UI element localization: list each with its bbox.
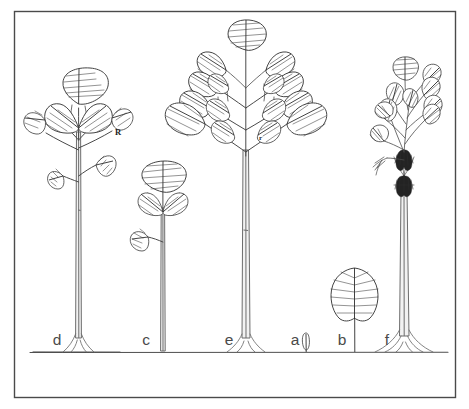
- trunk-icon: [242, 150, 250, 338]
- trunk-icon: [400, 190, 410, 336]
- leaf-icon: [375, 102, 393, 118]
- stage-label-a: a: [291, 331, 300, 348]
- stage-label-d: d: [53, 331, 62, 348]
- stage-label-e: e: [225, 331, 234, 348]
- trunk-icon: [161, 208, 166, 351]
- tree-growth-stages-figure: R d: [0, 0, 469, 409]
- leaf-icon: [370, 125, 389, 142]
- stage-label-f: f: [385, 331, 390, 348]
- leaf-icon: [331, 268, 378, 321]
- branch-order-label-R: R: [115, 127, 122, 137]
- stage-label-b: b: [338, 331, 347, 348]
- stage-label-c: c: [142, 331, 150, 348]
- figure-root: R d: [0, 0, 469, 409]
- branch-order-label-r: r: [259, 134, 262, 142]
- trunk-icon: [76, 132, 82, 338]
